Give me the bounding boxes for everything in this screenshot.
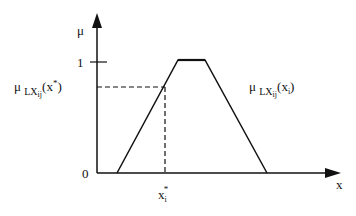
y-axis-arrow-icon [92,13,102,28]
y-axis-label: μ [77,24,84,37]
origin-label: 0 [82,167,89,180]
i-sub: i [165,195,167,204]
point-label: xi* [158,188,171,201]
ij-subscript: ij [38,90,42,99]
lx-subscript: LX [259,86,272,97]
mu-symbol: μ [14,79,21,94]
x-axis-label: x [336,178,343,191]
lx-subscript: LX [24,86,37,97]
curve-label: μ LXij(xi) [249,80,294,93]
i-sub: i [288,87,290,96]
star-sup: * [53,78,58,88]
star-sup: * [164,184,169,194]
trapezoid-curve [117,60,267,173]
x-arg: x [46,79,53,94]
ij-subscript: ij [273,90,277,99]
membership-at-point-label: μ LXij(x*) [14,80,62,93]
y-tick-label-1: 1 [77,56,84,69]
membership-diagram [0,0,356,216]
x-arg: x [281,79,288,94]
mu-symbol: μ [249,79,256,94]
